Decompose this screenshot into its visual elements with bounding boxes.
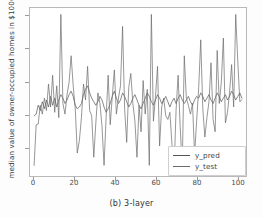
legend-label: y_test	[195, 162, 217, 171]
x-tick-mark	[238, 177, 239, 181]
x-tick-mark	[74, 177, 75, 181]
legend-line-icon	[173, 155, 190, 156]
figure-container: median value of owner-occupied homes in …	[0, 0, 263, 218]
x-tick-mark	[197, 177, 198, 181]
figure-caption: (b) 3-layer	[0, 199, 263, 208]
legend-label: y_pred	[195, 151, 220, 160]
legend: y_pred y_test	[168, 146, 246, 176]
legend-entry-y_pred: y_pred	[173, 150, 241, 161]
legend-line-icon	[173, 166, 190, 167]
y-axis-label: median value of owner-occupied homes in …	[7, 0, 16, 179]
legend-entry-y_test: y_test	[173, 161, 241, 172]
x-tick-mark	[156, 177, 157, 181]
x-tick-mark	[33, 177, 34, 181]
x-tick-mark	[115, 177, 116, 181]
